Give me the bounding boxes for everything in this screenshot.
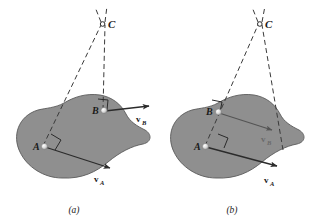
point-a-label: A — [32, 141, 40, 152]
point-b-label: B — [205, 106, 213, 117]
construction-line-a-extension — [252, 7, 258, 22]
rigid-body-shape-b — [171, 94, 304, 178]
point-a-marker — [41, 143, 47, 149]
mechanics-figure: C v A v B A B (a) — [0, 0, 311, 223]
point-c-label: C — [265, 18, 273, 30]
construction-line-b-extension — [105, 6, 107, 22]
rigid-body-shape-a — [17, 94, 150, 178]
point-c-marker — [100, 22, 105, 27]
point-b-label: B — [91, 105, 99, 116]
panel-a: C v A v B A B (a) — [17, 6, 150, 216]
panel-a-caption: (a) — [68, 205, 79, 216]
point-c-label: C — [108, 18, 116, 30]
velocity-b-symbol: v — [136, 114, 141, 124]
velocity-a-subscript: A — [99, 179, 105, 186]
point-b-marker — [215, 109, 221, 115]
figure-container: C v A v B A B (a) — [0, 0, 311, 223]
velocity-b-symbol: v — [261, 134, 266, 144]
velocity-a-symbol: v — [264, 175, 269, 185]
point-a-label: A — [193, 141, 201, 152]
velocity-b-subscript: B — [266, 139, 272, 146]
velocity-a-symbol: v — [94, 174, 99, 184]
velocity-b-subscript: B — [141, 119, 147, 126]
panel-b-caption: (b) — [226, 205, 237, 216]
construction-line-a-extension — [95, 7, 101, 22]
panel-b: C v A v B A B (b) — [171, 6, 304, 216]
velocity-a-subscript: A — [269, 180, 275, 187]
point-a-marker — [202, 143, 208, 149]
point-c-marker — [258, 22, 263, 27]
point-b-marker — [101, 107, 107, 113]
